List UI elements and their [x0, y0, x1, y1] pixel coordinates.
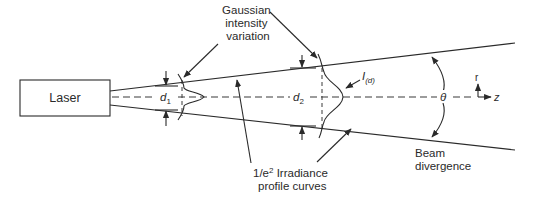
gaussian-annotation: Gaussian intensity variation	[184, 4, 317, 77]
laser-source: Laser	[20, 80, 110, 116]
theta-arc-upper-icon	[432, 57, 444, 92]
beam-lower-edge	[110, 105, 515, 150]
beam-divergence-diagram: Laser d1 d2 I(d	[0, 0, 537, 204]
irradiance-arrow-1-icon	[237, 80, 251, 163]
gaussian-label: Gaussian intensity variation	[222, 4, 274, 42]
theta-arc-lower-icon	[432, 103, 444, 137]
gaussian-arrow-1-icon	[184, 44, 218, 77]
gaussian-arrow-2-icon	[270, 12, 317, 58]
irradiance-label-line2: profile curves	[258, 180, 327, 192]
divergence-label: Beam divergence	[415, 147, 471, 172]
coordinate-axes: r z	[475, 72, 500, 103]
beam-upper-edge	[110, 43, 515, 91]
intensity-arrow-icon	[346, 80, 360, 88]
d1-dimension: d1	[155, 71, 178, 126]
intensity-annotation: I(d)	[346, 70, 375, 88]
divergence-angle: θ Beam divergence	[415, 57, 471, 172]
gaussian-profile-2	[318, 54, 343, 138]
irradiance-label-line1: 1/e2 Irradiance	[253, 166, 328, 179]
r-axis-label: r	[475, 72, 479, 83]
laser-label: Laser	[49, 91, 80, 105]
theta-label: θ	[440, 91, 447, 103]
intensity-label: I(d)	[362, 70, 375, 85]
irradiance-arrow-2-icon	[317, 129, 351, 162]
z-axis-label: z	[493, 91, 500, 103]
